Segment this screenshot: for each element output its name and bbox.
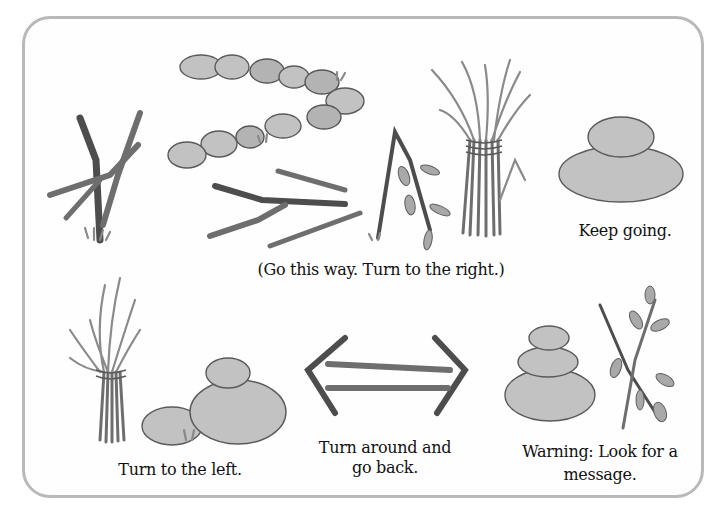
caption-turn-around-line1: Turn around and [305,437,465,458]
three-stacked-stones-icon [505,326,595,421]
crossed-sticks-icon [50,113,140,240]
double-arrow-sticks-icon [308,338,465,413]
two-stacked-stones-icon [559,117,683,202]
caption-warning-line1: Warning: Look for a [500,441,700,462]
caption-go-this-way: (Go this way. Turn to the right.) [256,259,506,280]
caption-turn-left: Turn to the left. [110,459,250,480]
bent-branch-icon [369,132,452,251]
caption-keep-going: Keep going. [565,220,685,241]
sticks-arrow-icon [210,171,360,246]
stone-line-icon [168,55,364,168]
grass-bundle-left-icon [70,278,140,442]
leafy-branches-icon [600,286,676,428]
caption-turn-around-line2: go back. [305,457,465,478]
stones-left-icon [142,358,286,445]
caption-warning-line2: message. [500,464,700,485]
